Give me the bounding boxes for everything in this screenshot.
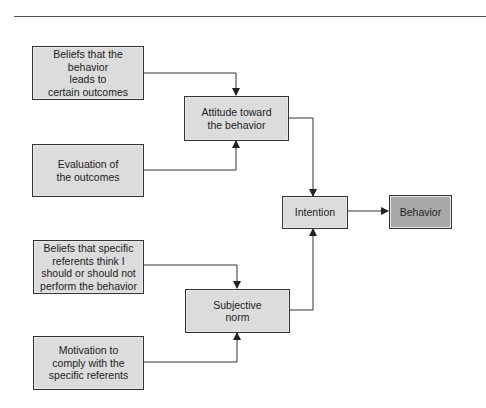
node-beliefs-outcomes: Beliefs that the behavior leads to certa… [32,46,144,100]
node-attitude: Attitude toward the behavior [184,96,289,141]
node-label: Beliefs that the behavior leads to certa… [48,48,128,98]
node-evaluation: Evaluation of the outcomes [32,144,144,197]
node-label: Intention [295,206,335,219]
node-label: Attitude toward the behavior [201,106,271,131]
node-behavior: Behavior [389,195,452,229]
node-label: Motivation to comply with the specific r… [49,344,128,382]
node-subjective-norm: Subjective norm [185,289,290,333]
node-motivation: Motivation to comply with the specific r… [33,336,144,390]
node-label: Subjective norm [213,299,261,324]
node-label: Behavior [400,206,441,219]
node-intention: Intention [282,196,348,229]
node-label: Beliefs that specific referents think I … [40,242,137,292]
node-label: Evaluation of the outcomes [56,158,119,183]
node-beliefs-referents: Beliefs that specific referents think I … [33,240,144,294]
